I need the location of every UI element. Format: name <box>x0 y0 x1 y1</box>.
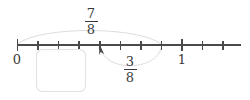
result-arrow-icon <box>99 44 104 55</box>
fraction-denominator: 8 <box>126 70 134 85</box>
fraction-three-eighths: 3 8 <box>124 54 138 85</box>
fraction-seven-eighths: 7 8 <box>85 6 99 37</box>
number-line-diagram: 0 1 7 8 3 8 <box>0 0 250 100</box>
fraction-numerator: 3 <box>126 54 134 69</box>
fraction-denominator: 8 <box>87 22 95 37</box>
answer-box[interactable] <box>37 50 86 92</box>
number-line-diagram-canvas: 0 1 7 8 3 8 <box>0 0 250 100</box>
axis-label-zero: 0 <box>13 52 21 67</box>
axis-label-one: 1 <box>178 52 186 67</box>
fraction-numerator: 7 <box>87 6 95 21</box>
